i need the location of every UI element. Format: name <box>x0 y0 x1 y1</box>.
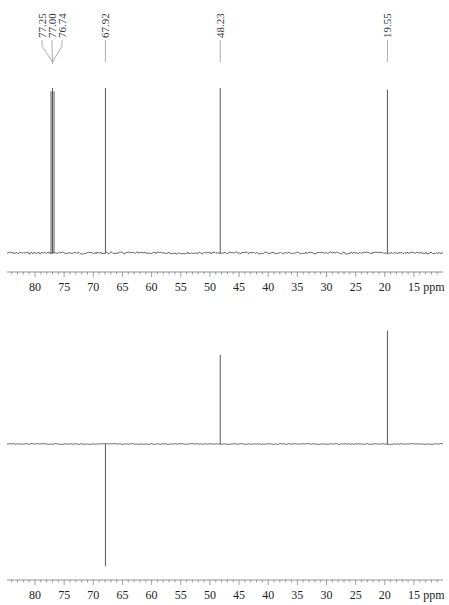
dept-spectrum: 8075706560555045403530252015ppm <box>7 331 445 602</box>
tick-label: 75 <box>58 588 70 602</box>
peak-leader <box>52 40 62 62</box>
peak-label: 67.92 <box>99 13 111 38</box>
x-axis-1: 8075706560555045403530252015ppm <box>7 580 445 602</box>
tick-label: 65 <box>116 588 128 602</box>
tick-label: 55 <box>175 588 187 602</box>
peak-label: 76.74 <box>56 13 68 38</box>
tick-label: 50 <box>204 588 216 602</box>
peak-leader <box>42 40 52 62</box>
tick-label: 35 <box>291 280 303 294</box>
unit-label: ppm <box>423 588 445 602</box>
tick-label: 25 <box>350 588 362 602</box>
peak-label: 19.55 <box>381 13 393 38</box>
tick-label: 70 <box>87 280 99 294</box>
tick-label: 80 <box>29 588 41 602</box>
peak-labels: 77.2577.0076.7467.9248.2319.55 <box>36 13 393 64</box>
carbon-13-spectrum: 8075706560555045403530252015ppm77.2577.0… <box>7 13 445 294</box>
tick-label: 55 <box>175 280 187 294</box>
tick-label: 45 <box>233 588 245 602</box>
tick-label: 40 <box>262 588 274 602</box>
tick-label: 60 <box>146 280 158 294</box>
tick-label: 80 <box>29 280 41 294</box>
tick-label: 20 <box>379 280 391 294</box>
tick-label: 20 <box>379 588 391 602</box>
baseline-trace <box>7 444 443 445</box>
tick-label: 30 <box>321 280 333 294</box>
tick-label: 70 <box>87 588 99 602</box>
tick-label: 35 <box>291 588 303 602</box>
tick-label: 15 <box>408 588 420 602</box>
peak-label: 48.23 <box>214 13 226 38</box>
unit-label: ppm <box>423 280 445 294</box>
tick-label: 45 <box>233 280 245 294</box>
tick-label: 50 <box>204 280 216 294</box>
tick-label: 15 <box>408 280 420 294</box>
tick-label: 25 <box>350 280 362 294</box>
tick-label: 60 <box>146 588 158 602</box>
x-axis-0: 8075706560555045403530252015ppm <box>7 272 445 294</box>
tick-label: 40 <box>262 280 274 294</box>
tick-label: 75 <box>58 280 70 294</box>
baseline-trace <box>7 252 443 254</box>
nmr-spectra-figure: 8075706560555045403530252015ppm77.2577.0… <box>0 0 449 605</box>
tick-label: 65 <box>116 280 128 294</box>
tick-label: 30 <box>321 588 333 602</box>
